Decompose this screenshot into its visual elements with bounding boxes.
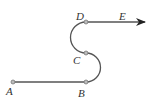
label-c: C: [73, 54, 81, 66]
point-d: [84, 20, 88, 24]
point-c: [84, 51, 88, 55]
arc-b-c: [86, 53, 101, 82]
label-b: B: [78, 87, 85, 99]
label-a: A: [5, 85, 13, 97]
s-path-diagram: A B C D E: [0, 0, 152, 104]
label-d: D: [75, 10, 84, 22]
point-a: [11, 80, 15, 84]
arc-c-d: [71, 22, 86, 53]
label-e: E: [118, 10, 126, 22]
point-b: [84, 80, 88, 84]
